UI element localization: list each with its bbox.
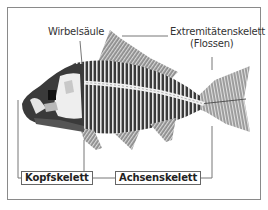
label-limb-skeleton: Extremitätenskelett	[170, 26, 265, 37]
label-spine: Wirbelsäule	[48, 26, 104, 37]
label-head-skeleton: Kopfskelett	[21, 171, 93, 185]
label-limb-skeleton-fins: (Flossen)	[190, 38, 234, 49]
label-axial-skeleton: Achsenskelett	[115, 171, 201, 185]
